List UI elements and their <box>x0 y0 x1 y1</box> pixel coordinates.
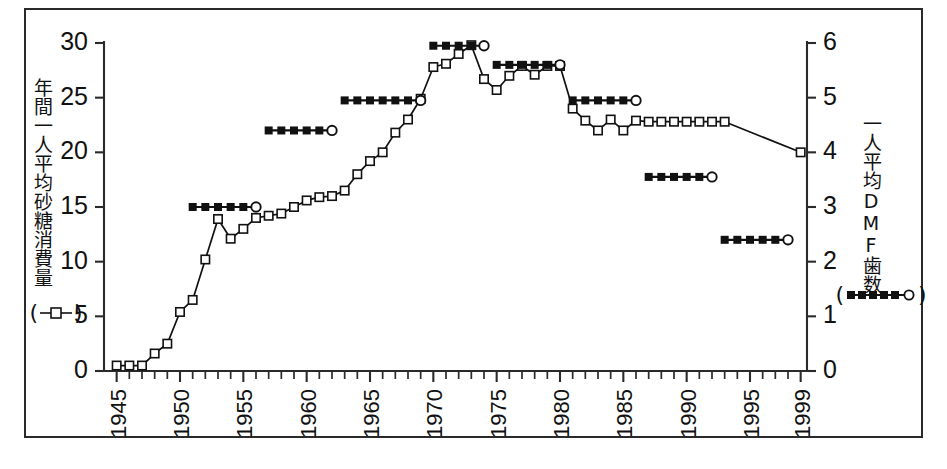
y-axis-label-left-30: 30 <box>44 27 88 56</box>
x-axis-label-1960: 1960 <box>296 389 322 438</box>
y-axis-label-right-2: 2 <box>823 246 853 275</box>
x-axis-label-1985: 1985 <box>612 389 638 438</box>
figure-root: 年間一人平均砂糖消費量 一人平均DMF歯数 ( ) ( ) 0510152025… <box>0 0 947 469</box>
y-axis-label-left-5: 5 <box>44 300 88 329</box>
y-axis-label-left-10: 10 <box>44 246 88 275</box>
filled-square-line-marker-icon <box>845 287 917 303</box>
x-axis-label-1975: 1975 <box>486 389 512 438</box>
chart-frame <box>24 8 923 438</box>
y-axis-label-left-0: 0 <box>44 355 88 384</box>
figure-caption <box>0 447 947 469</box>
y-axis-label-right-4: 4 <box>823 136 853 165</box>
y-axis-label-left-20: 20 <box>44 136 88 165</box>
x-axis-label-1965: 1965 <box>359 389 385 438</box>
right-axis-title: 一人平均DMF歯数 <box>861 98 881 310</box>
x-axis-label-1970: 1970 <box>422 389 448 438</box>
y-axis-label-right-0: 0 <box>823 355 853 384</box>
y-axis-label-right-3: 3 <box>823 191 853 220</box>
x-axis-label-1995: 1995 <box>739 389 765 438</box>
y-axis-label-right-1: 1 <box>823 300 853 329</box>
left-legend-open-paren: ( <box>28 302 39 324</box>
x-axis-label-1980: 1980 <box>549 389 575 438</box>
x-axis-label-1955: 1955 <box>232 389 258 438</box>
x-axis-label-1950: 1950 <box>169 389 195 438</box>
right-legend-close-paren: ) <box>917 284 928 306</box>
y-axis-label-right-5: 5 <box>823 82 853 111</box>
x-axis-label-1990: 1990 <box>676 389 702 438</box>
x-axis-label-1999: 1999 <box>790 389 816 438</box>
y-axis-label-right-6: 6 <box>823 27 853 56</box>
y-axis-label-left-25: 25 <box>44 82 88 111</box>
y-axis-label-left-15: 15 <box>44 191 88 220</box>
x-axis-label-1945: 1945 <box>106 389 132 438</box>
